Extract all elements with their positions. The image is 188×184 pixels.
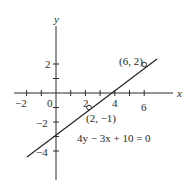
point-2-neg1-label: (2, −1) bbox=[86, 112, 116, 125]
x-axis-label: x bbox=[176, 87, 182, 99]
y-tick-label-neg4: −4 bbox=[36, 146, 48, 158]
point-6-2-label: (6, 2) bbox=[119, 55, 143, 68]
equation-label: 4y − 3x + 10 = 0 bbox=[77, 132, 151, 144]
point-2-neg1-marker bbox=[87, 105, 92, 110]
y-tick-label-2: 2 bbox=[45, 58, 51, 70]
coordinate-plane-figure: x y −2 0 2 4 6 2 −2 −4 (6, 2) (2, −1) 4y… bbox=[0, 0, 188, 184]
y-tick-label-neg2: −2 bbox=[36, 117, 48, 129]
x-tick-label-6: 6 bbox=[141, 101, 147, 113]
x-tick-label-4: 4 bbox=[112, 97, 118, 109]
origin-label: 0 bbox=[47, 97, 53, 109]
x-tick-label-neg2: −2 bbox=[15, 97, 27, 109]
y-axis-label: y bbox=[53, 13, 59, 25]
